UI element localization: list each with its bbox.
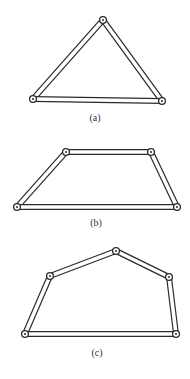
figure-b-four-bar-linkage (14, 149, 181, 211)
linkage-diagram (0, 0, 190, 379)
pin-center-icon (168, 276, 170, 278)
pin-center-icon (16, 206, 18, 208)
figure-a-caption: (a) (89, 112, 100, 123)
pin-center-icon (24, 333, 26, 335)
figure-c-five-bar-linkage (22, 248, 180, 338)
pin-center-icon (32, 98, 34, 100)
figure-a-triangle-linkage (30, 17, 166, 105)
pin-center-icon (102, 19, 104, 21)
figure-c-caption: (c) (91, 347, 102, 358)
pin-center-icon (150, 151, 152, 153)
link-bar-inner (17, 152, 66, 207)
link-bar-inner (151, 152, 177, 207)
link-bar-inner (33, 99, 162, 101)
link-bar-inner (103, 20, 162, 101)
pin-center-icon (65, 151, 67, 153)
pin-center-icon (161, 100, 163, 102)
link-bar-inner (25, 276, 50, 334)
pin-center-icon (175, 333, 177, 335)
pin-center-icon (49, 275, 51, 277)
figure-b-caption: (b) (90, 217, 102, 228)
pin-center-icon (176, 206, 178, 208)
pin-center-icon (115, 250, 117, 252)
link-bar-inner (116, 251, 169, 277)
link-bar-inner (50, 251, 116, 276)
link-bar-inner (33, 20, 103, 99)
